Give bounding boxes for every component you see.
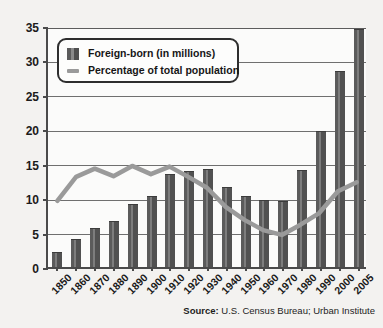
- y-tick-label-30: 30: [26, 56, 39, 68]
- x-tick-label-2005: 2005: [351, 272, 375, 296]
- x-tick-mark-1860: [75, 267, 77, 271]
- x-tick-mark-2005: [358, 267, 360, 271]
- y-tick-label-10: 10: [26, 194, 39, 206]
- x-tick-mark-1870: [94, 267, 96, 271]
- source-text: U.S. Census Bureau; Urban Institute: [219, 305, 375, 316]
- x-tick-label-1890: 1890: [125, 272, 149, 296]
- y-tick-label-5: 5: [32, 229, 39, 241]
- x-tick-mark-1980: [301, 267, 303, 271]
- y-tick-mark-0: [43, 268, 48, 270]
- x-tick-mark-1880: [113, 267, 115, 271]
- x-tick-mark-1960: [263, 267, 265, 271]
- x-tick-mark-1930: [207, 267, 209, 271]
- y-tick-label-15: 15: [26, 160, 39, 172]
- y-tick-label-0: 0: [32, 263, 39, 275]
- x-tick-mark-1920: [188, 267, 190, 271]
- x-tick-mark-2000: [339, 267, 341, 271]
- line-swatch-icon: [67, 69, 79, 73]
- chart-legend: Foreign-born (in millions) Percentage of…: [57, 38, 239, 83]
- source-label: Source:: [183, 305, 218, 316]
- x-tick-label-2000: 2000: [332, 272, 356, 296]
- x-tick-mark-1910: [169, 267, 171, 271]
- x-tick-mark-1970: [282, 267, 284, 271]
- x-tick-mark-1850: [56, 267, 58, 271]
- legend-label-foreign-born: Foreign-born (in millions): [88, 48, 215, 59]
- bar-swatch-icon: [67, 48, 79, 60]
- source-note: Source: U.S. Census Bureau; Urban Instit…: [183, 306, 375, 316]
- chart-figure: 05101520253035 1850186018701880189019001…: [0, 0, 383, 328]
- y-tick-label-35: 35: [26, 22, 39, 34]
- x-tick-mark-1950: [245, 267, 247, 271]
- x-tick-mark-1890: [132, 267, 134, 271]
- percentage-polyline: [57, 166, 356, 235]
- x-tick-mark-1940: [226, 267, 228, 271]
- y-tick-label-25: 25: [26, 91, 39, 103]
- legend-item-foreign-born: Foreign-born (in millions): [67, 45, 230, 62]
- legend-item-percentage: Percentage of total population: [67, 62, 230, 79]
- y-tick-label-20: 20: [26, 125, 39, 137]
- x-tick-mark-1990: [320, 267, 322, 271]
- legend-label-percentage: Percentage of total population: [88, 65, 239, 76]
- x-tick-mark-1900: [151, 267, 153, 271]
